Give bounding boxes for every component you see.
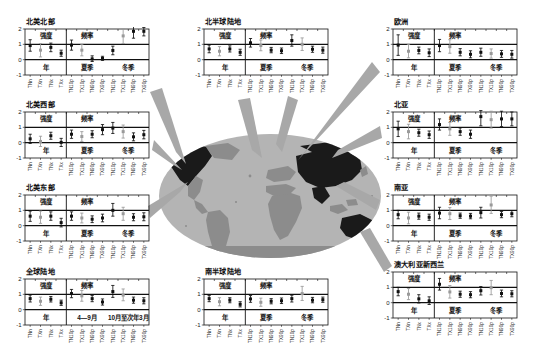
x-tick-label: TNn bbox=[28, 162, 33, 171]
group-label-1: 夏季 bbox=[448, 63, 462, 72]
x-tick-label: TN10p bbox=[479, 322, 484, 336]
group-label-0: 年 bbox=[43, 146, 50, 155]
x-tick-label: TX10p bbox=[300, 329, 305, 343]
data-point bbox=[500, 290, 503, 297]
section-label-frequency: 频率 bbox=[449, 31, 462, 40]
data-point bbox=[132, 214, 135, 221]
x-tick-label: TX10p bbox=[448, 322, 453, 336]
group-label-1: 夏季 bbox=[259, 63, 273, 72]
x-tick-label: TX90p bbox=[142, 245, 147, 259]
x-tick-label: TN10p bbox=[248, 329, 253, 343]
y-tick-label: 1 bbox=[18, 207, 22, 213]
x-tick-label: TX10p bbox=[489, 79, 494, 93]
data-point bbox=[469, 130, 472, 138]
x-tick-label: TXx bbox=[59, 79, 64, 88]
group-label-0: 年 bbox=[222, 313, 229, 322]
x-tick-label: TN10p bbox=[69, 329, 74, 343]
data-point bbox=[29, 134, 32, 143]
data-point bbox=[259, 298, 262, 306]
y-tick-label: -1 bbox=[16, 155, 22, 161]
y-tick-label: 2 bbox=[386, 27, 390, 32]
data-point bbox=[29, 40, 32, 52]
data-point bbox=[428, 49, 431, 57]
data-point bbox=[80, 44, 83, 56]
section-label-frequency: 频率 bbox=[260, 31, 273, 40]
x-tick-label: TNx bbox=[49, 78, 54, 87]
x-tick-label: TX90p bbox=[100, 79, 105, 93]
panel-title-west-north-america: 北美西部 bbox=[26, 101, 55, 109]
section-label-intensity: 强度 bbox=[408, 31, 421, 40]
data-point bbox=[29, 211, 32, 221]
section-label-frequency: 频率 bbox=[81, 31, 94, 40]
x-tick-label: TN90p bbox=[499, 322, 504, 336]
x-tick-label: TX90p bbox=[321, 79, 326, 93]
x-tick-label: TXx bbox=[427, 79, 432, 88]
group-label-2: 冬季 bbox=[301, 313, 314, 322]
x-tick-label: TN10p bbox=[479, 162, 484, 176]
data-point bbox=[60, 138, 63, 146]
x-tick-label: TN90p bbox=[499, 245, 504, 259]
data-point bbox=[80, 291, 83, 302]
x-tick-label: TXn bbox=[217, 329, 222, 338]
data-point bbox=[479, 207, 482, 218]
y-tick-label: -1 bbox=[16, 322, 22, 328]
data-point bbox=[49, 296, 52, 302]
panel-title-northern-hemisphere-land: 北半球陆地 bbox=[205, 18, 241, 26]
y-tick-label: 0 bbox=[18, 223, 22, 229]
x-tick-label: TNx bbox=[228, 78, 233, 87]
x-tick-label: TNn bbox=[28, 79, 33, 88]
x-tick-label: TNn bbox=[396, 79, 401, 88]
panel-plot-east-north-america: 210-1强度频率年夏季冬季TNnTXnTNxTXxTN10pTX10pTN90… bbox=[14, 193, 153, 269]
data-point bbox=[101, 125, 104, 135]
x-tick-label: TNn bbox=[396, 162, 401, 171]
data-point bbox=[29, 295, 32, 302]
data-point bbox=[60, 300, 63, 305]
x-tick-label: TX90p bbox=[321, 329, 326, 343]
data-point bbox=[417, 295, 420, 303]
x-tick-label: TN10p bbox=[479, 79, 484, 93]
data-point bbox=[448, 122, 451, 135]
data-point bbox=[438, 39, 441, 51]
section-label-intensity: 强度 bbox=[40, 281, 53, 290]
panel-title-southern-hemisphere-land: 南半球陆地 bbox=[205, 268, 241, 276]
panel-title-australia-new-zealand: 澳大利亚新西兰 bbox=[394, 261, 444, 269]
data-point bbox=[111, 285, 114, 297]
y-tick-label: 0 bbox=[197, 57, 201, 63]
arrow-to-northern-hemisphere-land bbox=[238, 98, 262, 158]
x-tick-label: TN90p bbox=[269, 79, 274, 93]
data-point bbox=[459, 49, 462, 56]
data-point bbox=[280, 48, 283, 54]
data-point bbox=[49, 212, 52, 220]
panel-title-north-north-america: 北美北部 bbox=[26, 18, 55, 26]
data-point bbox=[290, 295, 293, 302]
x-tick-label: TN10p bbox=[437, 162, 442, 176]
section-label-frequency: 频率 bbox=[260, 281, 273, 290]
section-label-intensity: 强度 bbox=[40, 197, 53, 206]
y-tick-label: 0 bbox=[18, 140, 22, 146]
x-tick-label: TX90p bbox=[100, 329, 105, 343]
data-point bbox=[70, 130, 73, 138]
group-label-2: 冬季 bbox=[301, 63, 314, 72]
section-label-intensity: 强度 bbox=[40, 114, 53, 123]
group-label-1: 4—9月 bbox=[77, 314, 97, 322]
panel-plot-global-land: 210-1强度频率年4—9月10月至次年3月TNnTXnTNxTXxTN10pT… bbox=[14, 277, 153, 353]
data-point bbox=[122, 207, 125, 220]
x-tick-label: TN10p bbox=[69, 79, 74, 93]
x-tick-label: TXn bbox=[38, 245, 43, 254]
panel-title-north-asia: 北亚 bbox=[394, 101, 408, 109]
data-point bbox=[500, 212, 503, 218]
x-tick-label: TN90p bbox=[90, 162, 95, 176]
group-label-0: 年 bbox=[411, 306, 418, 315]
data-point bbox=[228, 46, 231, 52]
section-label-frequency: 频率 bbox=[81, 281, 94, 290]
data-point bbox=[60, 50, 63, 56]
group-label-2: 冬季 bbox=[490, 146, 503, 155]
data-point bbox=[397, 210, 400, 218]
x-tick-label: TN10p bbox=[69, 162, 74, 176]
x-tick-label: TN90p bbox=[90, 329, 95, 343]
x-tick-label: TX90p bbox=[468, 79, 473, 93]
arrow-to-northern-hemisphere-land-2 bbox=[276, 96, 298, 152]
data-point bbox=[91, 56, 94, 62]
data-point bbox=[249, 296, 252, 303]
x-tick-label: TN10p bbox=[437, 245, 442, 259]
